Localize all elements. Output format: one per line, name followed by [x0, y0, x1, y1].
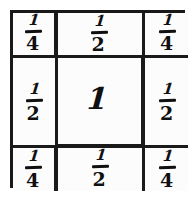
fraction-numerator: 1	[162, 82, 174, 98]
fraction-numerator: 1	[28, 149, 40, 165]
fraction-numerator: 1	[29, 82, 41, 98]
fraction-denominator: 2	[91, 34, 104, 54]
grid-cell-r2c3: 1 2	[145, 58, 188, 148]
grid-cell-r2c2-center: 1	[58, 58, 145, 148]
grid-cell-r1c1: 1 4	[13, 13, 58, 58]
fraction-one-half: 1 2	[92, 148, 109, 189]
fraction-numerator: 1	[162, 149, 174, 165]
grid-cell-r3c2: 1 2	[58, 148, 145, 191]
fraction-denominator: 2	[160, 103, 173, 123]
fraction-numerator: 1	[95, 148, 107, 164]
fraction-grid: 1 4 1 2 1 4 1 2	[10, 10, 185, 188]
fraction-one-quarter: 1 4	[159, 149, 176, 190]
fraction-numerator: 1	[94, 14, 106, 30]
grid-cell-r3c1: 1 4	[13, 148, 58, 191]
grid-cell-r1c2: 1 2	[58, 13, 145, 58]
fraction-one-quarter: 1 4	[25, 149, 42, 190]
fraction-one-half: 1 2	[159, 82, 176, 123]
fraction-grid-figure: 1 4 1 2 1 4 1 2	[0, 0, 194, 203]
fraction-denominator: 2	[26, 103, 39, 123]
fraction-one-half: 1 2	[91, 14, 108, 55]
whole-number-one: 1	[86, 84, 109, 114]
fraction-one-half: 1 2	[26, 82, 43, 123]
fraction-denominator: 4	[160, 33, 173, 53]
fraction-numerator: 1	[162, 13, 174, 29]
grid-cell-r2c1: 1 2	[13, 58, 58, 148]
fraction-denominator: 4	[26, 170, 39, 190]
fraction-numerator: 1	[28, 13, 40, 29]
grid-cell-r3c3: 1 4	[145, 148, 188, 191]
fraction-one-quarter: 1 4	[25, 13, 42, 53]
fraction-denominator: 4	[160, 170, 173, 190]
fraction-denominator: 2	[92, 169, 105, 189]
fraction-denominator: 4	[26, 33, 39, 53]
fraction-one-quarter: 1 4	[159, 13, 176, 53]
grid-cell-r1c3: 1 4	[145, 13, 188, 58]
